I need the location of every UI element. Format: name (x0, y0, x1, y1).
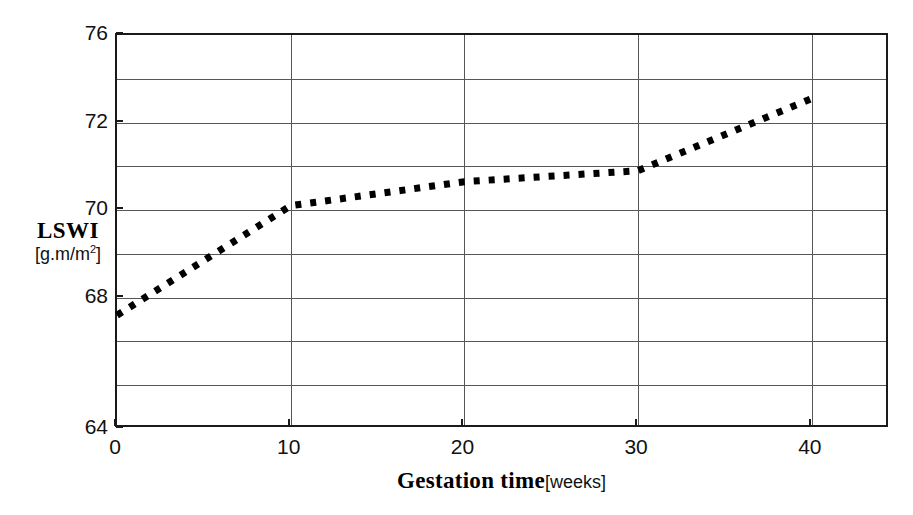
x-tick-label: 0 (85, 435, 145, 459)
x-axis-label: Gestation time[weeks] (115, 468, 888, 494)
y-tick-label: 76 (85, 22, 108, 43)
y-tick-label: 72 (85, 110, 108, 131)
y-tick-label: 68 (85, 285, 108, 306)
gridline-vertical (464, 35, 465, 425)
x-axis-label-text: Gestation time (397, 468, 545, 493)
gridline-horizontal (117, 123, 886, 124)
y-axis-units-suffix: ] (96, 244, 101, 264)
gridline-horizontal (117, 210, 886, 211)
x-tick-mark (114, 419, 116, 426)
x-tick-label: 40 (780, 435, 840, 459)
y-axis-label-text: LSWI (18, 218, 118, 243)
y-axis-units-text: [g.m/m2] (18, 243, 118, 265)
data-series-layer (117, 35, 890, 429)
x-axis-units-text: [weeks] (545, 472, 606, 492)
gridline-vertical (638, 35, 639, 425)
y-axis-label: LSWI [g.m/m2] (18, 218, 118, 265)
y-tick-mark (116, 120, 123, 122)
x-tick-label: 20 (432, 435, 492, 459)
x-tick-mark (635, 419, 637, 426)
x-tick-mark (809, 419, 811, 426)
y-axis-units-prefix: [g.m/m (35, 244, 90, 264)
gridline-horizontal (117, 341, 886, 342)
plot-area (115, 33, 888, 427)
gridline-horizontal (117, 254, 886, 255)
gridline-horizontal (117, 79, 886, 80)
x-tick-mark (461, 419, 463, 426)
gridline-vertical (291, 35, 292, 425)
gridline-horizontal (117, 298, 886, 299)
y-tick-label: 70 (85, 197, 108, 218)
x-tick-label: 30 (606, 435, 666, 459)
y-tick-mark (116, 207, 123, 209)
gridline-horizontal (117, 166, 886, 167)
gridline-horizontal (117, 385, 886, 386)
x-tick-mark (288, 419, 290, 426)
gridline-vertical (812, 35, 813, 425)
y-tick-mark (116, 295, 123, 297)
y-tick-mark (116, 32, 123, 34)
y-tick-label: 64 (85, 416, 108, 437)
x-tick-label: 10 (259, 435, 319, 459)
chart-figure: LSWI [g.m/m2] Gestation time[weeks] 6468… (0, 0, 913, 515)
y-tick-mark (116, 426, 123, 428)
